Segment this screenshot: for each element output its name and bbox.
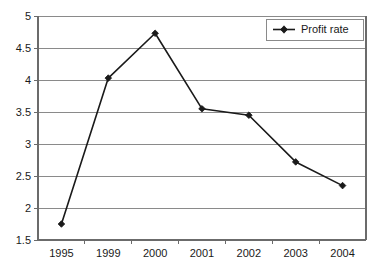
x-tick-label: 2001 [190, 247, 214, 259]
x-tick-label: 2003 [283, 247, 307, 259]
y-tick-label: 4 [25, 74, 31, 86]
chart-legend: Profit rate [266, 19, 363, 40]
y-tick-label: 5 [25, 10, 31, 22]
x-axis-tick-marks [85, 240, 319, 244]
y-axis-tick-labels: 1.522.533.544.55 [16, 10, 31, 246]
chart-canvas: 1.522.533.544.55 19951999200020012002200… [0, 0, 376, 271]
x-tick-label: 1995 [49, 247, 73, 259]
y-tick-label: 2 [25, 202, 31, 214]
x-tick-label: 2002 [237, 247, 261, 259]
y-tick-label: 2.5 [16, 170, 31, 182]
line-chart: 1.522.533.544.55 19951999200020012002200… [0, 0, 376, 271]
x-axis-tick-labels: 1995199920002001200220032004 [49, 247, 355, 259]
y-tick-label: 1.5 [16, 234, 31, 246]
y-tick-label: 3.5 [16, 106, 31, 118]
plot-area-background [38, 16, 366, 240]
x-tick-label: 1999 [96, 247, 120, 259]
y-tick-label: 4.5 [16, 42, 31, 54]
x-tick-label: 2004 [330, 247, 354, 259]
y-tick-label: 3 [25, 138, 31, 150]
legend-entry-label: Profit rate [301, 23, 349, 35]
x-tick-label: 2000 [143, 247, 167, 259]
